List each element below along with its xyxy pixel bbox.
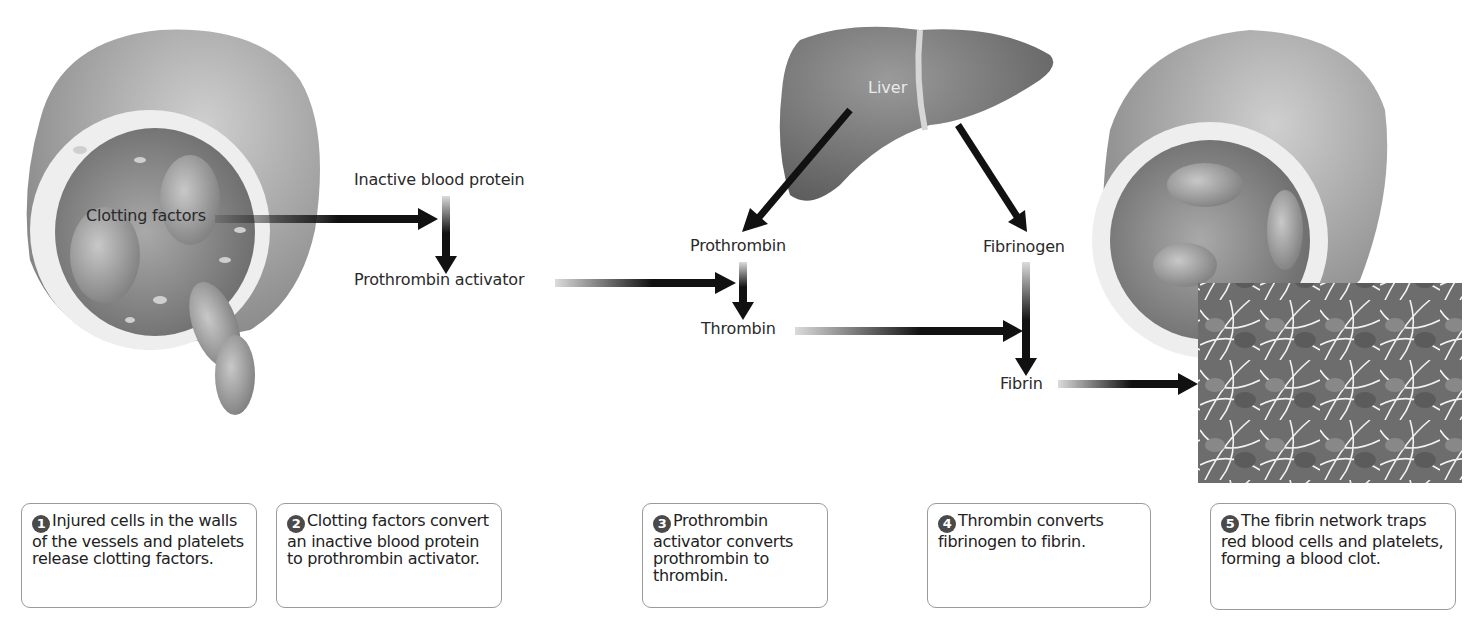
step-card-4: 4Thrombin converts fibrinogen to fibrin.: [927, 503, 1151, 608]
step-card-5: 5The fibrin network traps red blood cell…: [1210, 503, 1456, 610]
step-number-badge: 1: [32, 515, 50, 533]
step-number-badge: 3: [653, 515, 671, 533]
arrow-prothrombin-to-thrombin: [732, 262, 754, 320]
arrow-fibrin-to-clot: [1058, 373, 1198, 395]
label-prothrombin-activator: Prothrombin activator: [354, 270, 524, 289]
step-card-2: 2Clotting factors convert an inactive bl…: [276, 503, 502, 608]
clot-vessel-illustration: [1092, 30, 1462, 483]
step-number-badge: 5: [1221, 515, 1239, 533]
arrow-liver-to-fibrinogen: [958, 125, 1027, 232]
step-text: The fibrin network traps red blood cells…: [1221, 511, 1443, 568]
label-fibrin: Fibrin: [1000, 374, 1043, 393]
arrow-thrombin-to-fibrin-step: [795, 320, 1023, 342]
liver-illustration: [780, 27, 1054, 201]
label-prothrombin: Prothrombin: [690, 236, 786, 255]
step-card-3: 3Prothrombin activator converts prothrom…: [642, 503, 828, 608]
label-fibrinogen: Fibrinogen: [983, 237, 1065, 256]
step-text: Injured cells in the walls of the vessel…: [32, 511, 244, 568]
label-clotting-factors: Clotting factors: [86, 206, 206, 225]
label-inactive-blood-protein: Inactive blood protein: [354, 170, 524, 189]
step-text: Clotting factors convert an inactive blo…: [287, 511, 489, 568]
step-text: Prothrombin activator converts prothromb…: [653, 511, 793, 585]
step-number-badge: 4: [938, 515, 956, 533]
label-thrombin: Thrombin: [701, 319, 776, 338]
label-liver: Liver: [868, 78, 907, 97]
step-card-1: 1Injured cells in the walls of the vesse…: [21, 503, 257, 608]
step-text: Thrombin converts fibrinogen to fibrin.: [938, 511, 1103, 551]
arrow-fibrinogen-to-fibrin: [1015, 262, 1037, 376]
arrow-activator-to-prothrombin-step: [555, 272, 736, 294]
step-number-badge: 2: [287, 515, 305, 533]
arrow-inactive-protein-to-activator: [435, 196, 457, 274]
